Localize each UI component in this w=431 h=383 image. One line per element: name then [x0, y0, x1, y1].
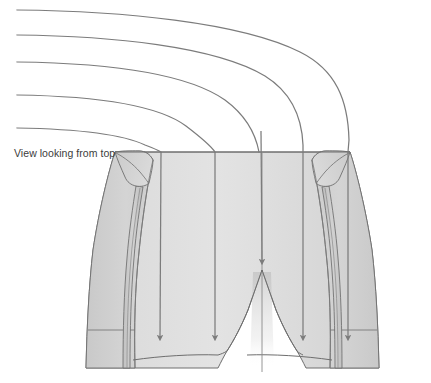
- flow-line-5: [17, 128, 161, 152]
- flow-line-4: [17, 95, 215, 152]
- flow-lines-group: [17, 10, 349, 152]
- garment-body-group: [86, 151, 379, 372]
- flow-line-2: [17, 35, 303, 152]
- illustration-root: View looking from top: [0, 0, 431, 383]
- garment-drape-diagram: [0, 0, 431, 383]
